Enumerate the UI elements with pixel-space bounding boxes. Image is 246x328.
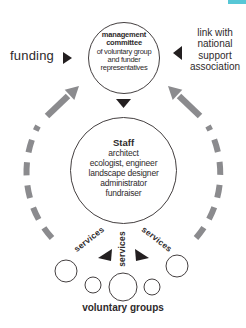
services-arrow-left-icon <box>98 249 112 261</box>
right-feedback-arc <box>196 126 220 238</box>
staff-role: ecologist, engineer <box>71 158 176 168</box>
link-label-line: association <box>186 61 244 72</box>
voluntary-group-circle-4 <box>144 279 160 295</box>
link-arrow-icon <box>173 46 182 60</box>
staff-circle: Staff architect ecologist, engineer land… <box>70 117 177 224</box>
funding-arrow-icon <box>63 52 72 64</box>
link-label-line: support <box>186 50 244 61</box>
staff-role: fundraiser <box>71 188 176 198</box>
staff-role: administrator <box>71 178 176 188</box>
voluntary-group-circle-2 <box>85 277 101 293</box>
left-feedback-arc <box>26 126 52 238</box>
management-committee-circle: management committee of voluntary group … <box>88 22 160 94</box>
committee-to-staff-arrow-icon <box>116 99 131 108</box>
link-label-line: link with <box>186 27 244 38</box>
services-label-middle: services <box>117 231 127 267</box>
staff-role: landscape designer <box>71 168 176 178</box>
voluntary-group-circle-1 <box>55 260 77 282</box>
link-label: link with national support association <box>186 27 244 73</box>
staff-role: architect <box>71 148 176 158</box>
diagram-canvas: funding link with national support assoc… <box>0 0 246 328</box>
left-feedback-arrow-shaft <box>47 96 68 116</box>
right-feedback-arrow-shaft <box>179 96 200 116</box>
management-committee-body-line: representatives <box>89 64 159 72</box>
link-label-line: national <box>186 38 244 49</box>
services-arrow-right-icon <box>135 249 149 261</box>
funding-label: funding <box>10 48 54 63</box>
voluntary-group-circle-3 <box>109 273 137 301</box>
voluntary-group-circle-5 <box>166 255 188 277</box>
staff-title: Staff <box>71 138 176 148</box>
voluntary-groups-label: voluntary groups <box>0 302 246 313</box>
